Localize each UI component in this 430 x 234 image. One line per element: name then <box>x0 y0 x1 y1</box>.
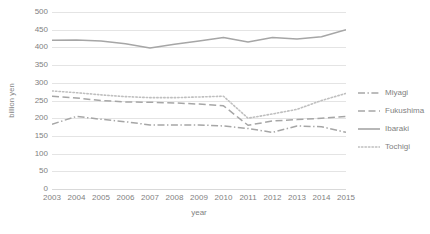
y-axis-tick-label: 150 <box>35 132 48 140</box>
series-lines <box>52 12 346 189</box>
y-axis-tick-label: 200 <box>35 114 48 122</box>
chart-legend: MiyagiFukushimaIbarakiTochigi <box>358 84 428 156</box>
y-axis-tick-label: 50 <box>39 167 48 175</box>
y-axis-tick-label: 100 <box>35 150 48 158</box>
series-line-ibaraki <box>52 30 346 48</box>
legend-label: Fukushima <box>385 106 424 116</box>
y-axis-tick-label: 250 <box>35 97 48 105</box>
line-chart: billion yen 0501001502002503003504004505… <box>0 0 430 234</box>
gridline <box>52 189 346 190</box>
y-axis-tick-label: 350 <box>35 61 48 69</box>
x-axis-tick-label: 2015 <box>331 193 361 203</box>
legend-item-tochigi[interactable]: Tochigi <box>358 138 428 156</box>
y-axis-tick-label: 300 <box>35 79 48 87</box>
legend-item-fukushima[interactable]: Fukushima <box>358 102 428 120</box>
legend-item-ibaraki[interactable]: Ibaraki <box>358 120 428 138</box>
legend-line-icon <box>358 142 380 152</box>
legend-label: Ibaraki <box>385 124 409 134</box>
legend-line-icon <box>358 106 380 116</box>
legend-line-icon <box>358 88 380 98</box>
series-line-fukushima <box>52 96 346 125</box>
y-axis-tick-label: 400 <box>35 43 48 51</box>
legend-line-icon <box>358 124 380 134</box>
x-axis-tick-labels: 2003200420052006200720082009201020112012… <box>52 193 346 207</box>
plot-area <box>52 12 346 189</box>
legend-label: Miyagi <box>385 88 408 98</box>
y-axis-tick-label: 0 <box>44 185 48 193</box>
legend-label: Tochigi <box>385 142 410 152</box>
y-axis-tick-label: 500 <box>35 8 48 16</box>
legend-item-miyagi[interactable]: Miyagi <box>358 84 428 102</box>
x-axis-title: year <box>52 208 346 217</box>
y-axis-tick-label: 450 <box>35 26 48 34</box>
